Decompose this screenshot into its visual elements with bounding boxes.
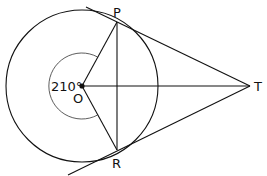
geometry-diagram: P R T O 210° bbox=[0, 0, 267, 176]
angle-label: 210° bbox=[51, 79, 82, 94]
radius-op bbox=[82, 22, 117, 86]
tangent-tr bbox=[68, 86, 250, 175]
label-t: T bbox=[253, 79, 262, 94]
radius-or bbox=[82, 86, 117, 150]
tangent-tp bbox=[86, 7, 250, 86]
label-p: P bbox=[113, 5, 121, 20]
label-r: R bbox=[112, 156, 121, 171]
